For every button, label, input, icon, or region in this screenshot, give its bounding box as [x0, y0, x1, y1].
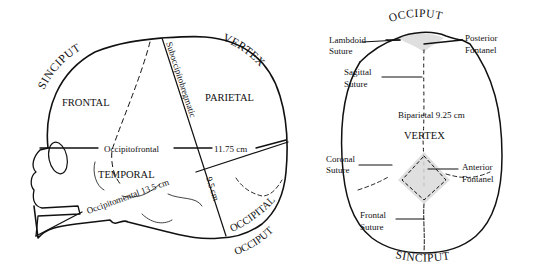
lambdoid-suture — [236, 178, 282, 196]
label-posterior-fontanel-1: Posterior — [465, 33, 498, 43]
label-frontal-suture-1: Frontal — [360, 210, 386, 220]
anterior-fontanel — [398, 152, 450, 204]
label-lambdoid-2: Suture — [329, 46, 353, 56]
label-sinciput-superior: SINCIPUT — [395, 248, 451, 263]
label-suboccipitobregmatic-value: 9.5 cm — [204, 176, 221, 202]
label-temporal: TEMPORAL — [98, 169, 155, 180]
suboccipitobregmatic-line — [162, 38, 226, 236]
superior-skull-view: OCCIPUT Lambdoid Suture Posterior Fontan… — [326, 7, 502, 264]
label-sagittal-1: Sagittal — [344, 67, 372, 77]
label-frontal: FRONTAL — [62, 97, 110, 108]
label-anterior-fontanel-2: Fontanel — [462, 174, 494, 184]
label-suboccipitobregmatic: Suboccipitobregmatic — [164, 41, 198, 119]
label-occiput-superior: OCCIPUT — [387, 7, 444, 24]
label-parietal: PARIETAL — [205, 92, 254, 103]
coronal-suture — [112, 42, 150, 186]
label-biparietal: Biparietal 9.25 cm — [398, 110, 465, 120]
label-posterior-fontanel-2: Fontanel — [465, 45, 497, 55]
face-profile — [31, 148, 80, 236]
leader-lambdoid — [362, 40, 400, 42]
label-occipitofrontal: Occipitofrontal — [104, 144, 159, 154]
lateral-skull-outline — [34, 37, 287, 239]
label-vertex-lateral: VERTEX — [221, 31, 268, 69]
label-anterior-fontanel-1: Anterior — [462, 162, 493, 172]
label-coronal-1: Coronal — [326, 154, 355, 164]
label-lambdoid-1: Lambdoid — [329, 35, 366, 45]
lateral-skull-view: SINCIPUT VERTEX FRONTAL PARIETAL TEMPORA… — [31, 31, 288, 257]
frontal-suture — [424, 204, 425, 252]
label-vertex-superior: VERTEX — [404, 130, 445, 141]
label-occipitofrontal-value: 11.75 cm — [214, 144, 247, 154]
label-sagittal-2: Suture — [344, 79, 368, 89]
orbit — [46, 140, 70, 175]
label-occipitomental: Occipitomental 13.5 cm — [85, 177, 170, 216]
label-frontal-suture-2: Suture — [360, 222, 384, 232]
label-coronal-2: Suture — [326, 165, 350, 175]
fetal-skull-diagram: SINCIPUT VERTEX FRONTAL PARIETAL TEMPORA… — [0, 0, 533, 278]
